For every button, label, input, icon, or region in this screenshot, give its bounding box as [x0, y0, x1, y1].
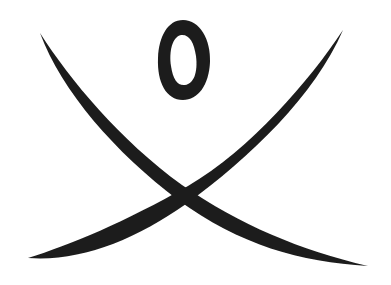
stroke-right-to-left: [28, 30, 343, 258]
oval: [158, 20, 210, 100]
crossed-strokes-symbol-icon: [0, 0, 391, 285]
symbol-figure: Symbol of two crossing curved brush stro…: [0, 0, 391, 285]
